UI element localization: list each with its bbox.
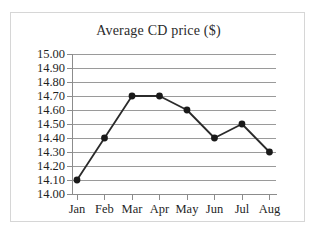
x-axis-tick-mark (214, 195, 215, 200)
x-axis-tick-mark (187, 195, 188, 200)
y-axis-tick-label: 14.80 (17, 76, 65, 89)
data-point-marker (239, 121, 246, 128)
data-point-marker (156, 93, 163, 100)
x-axis-tick-mark (269, 195, 270, 200)
x-axis-tick-mark (159, 195, 160, 200)
x-axis-tick-mark (104, 195, 105, 200)
x-axis-tick-label: Aug (249, 202, 289, 217)
y-axis-tick-mark (67, 152, 72, 153)
y-axis-tick-label: 14.70 (17, 90, 65, 103)
y-axis-tick-label: 14.30 (17, 146, 65, 159)
data-point-marker (129, 93, 136, 100)
y-axis-tick-mark (67, 194, 72, 195)
y-axis-tick-label: 14.10 (17, 174, 65, 187)
y-axis-tick-label: 14.40 (17, 132, 65, 145)
data-point-marker (184, 107, 191, 114)
y-axis-tick-label: 14.20 (17, 160, 65, 173)
data-point-marker (74, 177, 81, 184)
y-axis-tick-label: 15.00 (17, 48, 65, 61)
y-axis-tick-mark (67, 54, 72, 55)
y-axis-tick-mark (67, 68, 72, 69)
x-axis-tick-mark (132, 195, 133, 200)
x-axis-tick-mark (77, 195, 78, 200)
y-axis-tick-label: 14.60 (17, 104, 65, 117)
y-axis-tick-mark (67, 96, 72, 97)
y-axis-tick-mark (67, 110, 72, 111)
data-point-marker (266, 149, 273, 156)
y-axis-tick-label: 14.90 (17, 62, 65, 75)
y-axis-tick-label: 14.00 (17, 188, 65, 201)
y-axis-tick-mark (67, 138, 72, 139)
data-point-marker (211, 135, 218, 142)
y-axis-tick-label: 14.50 (17, 118, 65, 131)
y-axis-tick-mark (67, 124, 72, 125)
y-axis-tick-mark (67, 180, 72, 181)
data-point-marker (101, 135, 108, 142)
y-axis-tick-mark (67, 82, 72, 83)
chart-figure: Average CD price ($) 15.0014.9014.8014.7… (10, 12, 305, 222)
y-axis-tick-mark (67, 166, 72, 167)
x-axis-tick-mark (242, 195, 243, 200)
